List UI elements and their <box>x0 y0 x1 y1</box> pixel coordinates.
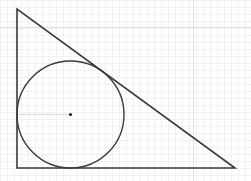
circle-center-point <box>69 113 72 116</box>
diagram-canvas <box>0 0 251 181</box>
background-grid <box>0 0 251 181</box>
